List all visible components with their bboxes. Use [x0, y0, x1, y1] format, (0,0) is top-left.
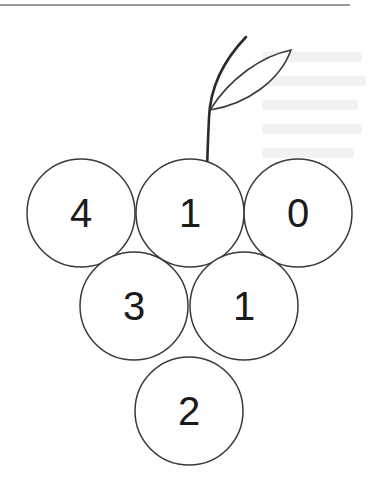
grape-value: 3: [123, 284, 145, 328]
grape-value: 4: [70, 191, 92, 235]
grape-value: 1: [179, 191, 201, 235]
grape-top-right: 0: [244, 159, 352, 267]
grape-value: 1: [233, 284, 255, 328]
leaf-icon: [210, 50, 291, 110]
grape-top-left: 4: [27, 159, 135, 267]
grape-value: 0: [287, 191, 309, 235]
grape-middle-left: 3: [80, 252, 188, 360]
grape-top-center: 1: [136, 159, 244, 267]
grape-cluster-diagram: 4 0 1 3 1 2: [0, 0, 371, 496]
grape-value: 2: [178, 389, 200, 433]
grape-bottom: 2: [135, 357, 243, 465]
grape-middle-right: 1: [190, 252, 298, 360]
